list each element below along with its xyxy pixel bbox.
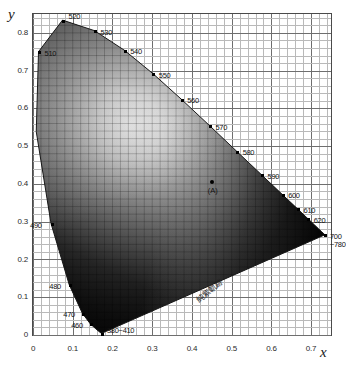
x-tick-0.2: 0.2: [99, 344, 127, 353]
x-tick-0.5: 0.5: [218, 344, 246, 353]
chromaticity-gamut: [33, 14, 331, 335]
illuminant-a-dot: [210, 180, 214, 184]
x-tick-0.6: 0.6: [257, 344, 285, 353]
illuminant-a-label: (A): [208, 186, 218, 195]
x-tick-0: 0: [19, 344, 47, 353]
y-tick-0.3: 0.3: [0, 217, 28, 226]
y-axis-label: y: [8, 6, 15, 23]
x-tick-0.3: 0.3: [138, 344, 166, 353]
y-tick-0: 0: [0, 330, 28, 339]
y-tick-0.4: 0.4: [0, 179, 28, 188]
y-tick-0.6: 0.6: [0, 103, 28, 112]
x-tick-0.7: 0.7: [297, 344, 325, 353]
y-tick-0.5: 0.5: [0, 141, 28, 150]
wavelength-label-780: ~780: [330, 240, 346, 249]
y-tick-0.8: 0.8: [0, 28, 28, 37]
plot-area: 520 530 510 540 550: [32, 13, 332, 336]
y-tick-0.2: 0.2: [0, 255, 28, 264]
y-tick-0.7: 0.7: [0, 66, 28, 75]
x-tick-0.1: 0.1: [59, 344, 87, 353]
wavelength-label-700: 700: [330, 232, 342, 241]
y-tick-0.1: 0.1: [0, 292, 28, 301]
x-tick-0.4: 0.4: [178, 344, 206, 353]
